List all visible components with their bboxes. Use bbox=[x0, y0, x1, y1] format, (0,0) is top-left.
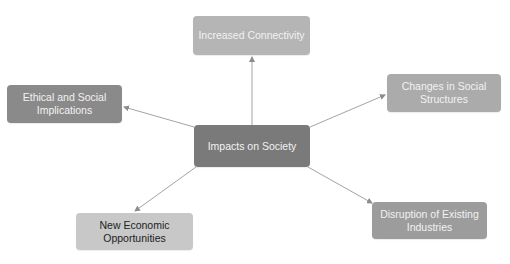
node-label: Ethical and Social Implications bbox=[7, 91, 122, 117]
edge-to-disruption bbox=[308, 167, 372, 203]
center-label: Impacts on Society bbox=[204, 140, 301, 153]
node-label: New Economic Opportunities bbox=[76, 219, 193, 245]
node-new-economic-opportunities: New Economic Opportunities bbox=[76, 213, 193, 250]
node-label: Changes in Social Structures bbox=[387, 80, 501, 106]
node-changes-social-structures: Changes in Social Structures bbox=[387, 74, 501, 112]
edge-to-ethical-social bbox=[124, 107, 194, 127]
node-impacts-on-society: Impacts on Society bbox=[194, 125, 310, 167]
node-increased-connectivity: Increased Connectivity bbox=[193, 16, 310, 55]
edge-to-social-structures bbox=[310, 95, 385, 127]
node-ethical-social-implications: Ethical and Social Implications bbox=[7, 85, 122, 123]
edge-to-new-economic bbox=[135, 167, 196, 211]
node-label: Increased Connectivity bbox=[194, 29, 308, 42]
node-disruption-existing-industries: Disruption of Existing Industries bbox=[372, 202, 487, 239]
node-label: Disruption of Existing Industries bbox=[372, 208, 487, 234]
